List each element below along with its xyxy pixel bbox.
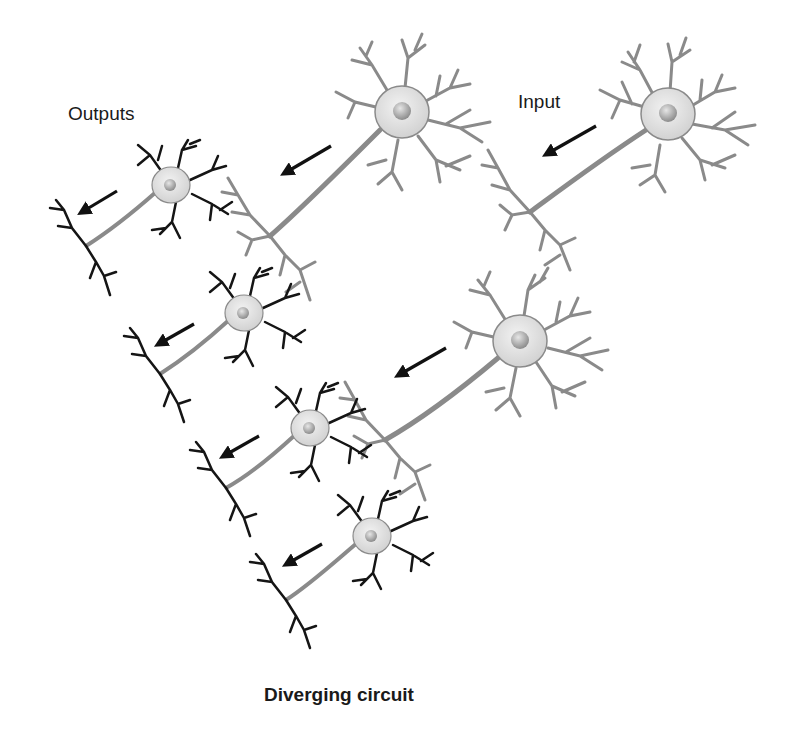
- arrow-icon: [229, 436, 259, 453]
- arrow-icon: [404, 348, 446, 372]
- relay-neuron-upper-nucleus: [393, 102, 411, 120]
- diagram-caption: Diverging circuit: [264, 684, 414, 706]
- outputs-label: Outputs: [68, 103, 135, 125]
- output-neuron-2: [124, 268, 305, 422]
- output-neuron-3: [190, 383, 371, 536]
- input-neuron: [482, 38, 755, 270]
- arrow-icon: [290, 146, 331, 170]
- arrow-icon: [552, 126, 596, 151]
- arrow-icon: [292, 544, 322, 561]
- diverging-circuit-diagram: Outputs Input Diverging circuit: [0, 0, 802, 729]
- output-neuron-1: [50, 140, 232, 295]
- input-label: Input: [518, 91, 560, 113]
- relay-neuron-lower: [340, 268, 608, 500]
- relay-neuron-lower-nucleus: [511, 331, 529, 349]
- output-neuron-4: [250, 491, 433, 648]
- arrow-icon: [87, 191, 117, 209]
- relay-neuron-upper: [222, 34, 490, 300]
- input-neuron-nucleus: [659, 104, 677, 122]
- arrow-icon: [164, 324, 194, 341]
